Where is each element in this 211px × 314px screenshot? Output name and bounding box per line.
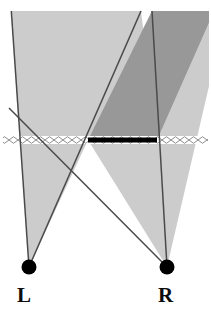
- right-eye-dot: [160, 260, 175, 275]
- left-eye-label: L: [17, 285, 31, 306]
- left-eye-dot: [22, 260, 37, 275]
- diagram-canvas: [0, 0, 211, 314]
- stimulus-bar: [88, 138, 157, 143]
- right-eye-label: R: [158, 285, 173, 306]
- stereo-diagram-figure: L R: [0, 0, 211, 314]
